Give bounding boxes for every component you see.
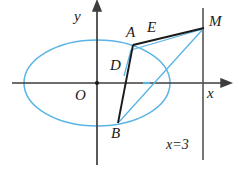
point-label-a: A	[126, 25, 135, 40]
line-m-to-b-blue	[119, 29, 203, 122]
origin-point	[95, 81, 99, 85]
line-m-to-a-blue	[131, 29, 203, 50]
segment-a-m	[133, 28, 204, 45]
point-label-m: M	[209, 14, 222, 29]
x-axis-label: x	[207, 86, 214, 101]
point-label-e: E	[147, 20, 156, 35]
y-axis-label: y	[74, 9, 81, 24]
point-label-b: B	[111, 126, 120, 141]
figure-canvas	[0, 0, 239, 172]
geometry-figure: y x O A E M D B x=3	[0, 0, 239, 172]
point-label-d: D	[110, 58, 121, 73]
origin-label: O	[75, 88, 86, 103]
directrix-label: x=3	[166, 138, 189, 152]
